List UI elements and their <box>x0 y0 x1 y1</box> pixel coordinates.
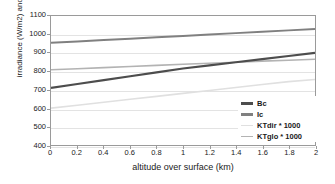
x-axis-tick-mark <box>236 146 237 149</box>
legend-item: Bc <box>241 98 330 109</box>
x-axis-tick-labels: 00.20.40.60.811.21.41.61.82 <box>50 148 316 160</box>
x-axis-tick-label: 0 <box>37 148 63 158</box>
y-axis-tick-label: 900 <box>24 48 46 56</box>
legend-color-swatch <box>241 136 253 138</box>
x-axis-tick-mark <box>156 146 157 149</box>
y-axis-tick-mark <box>47 15 50 16</box>
x-axis-tick-label: 0.6 <box>117 148 143 158</box>
legend-color-swatch <box>241 125 253 127</box>
y-axis-tick-labels: 11001000900800700600500400 <box>24 10 46 150</box>
x-axis-tick-label: 0.2 <box>64 148 90 158</box>
y-axis-tick-label: 800 <box>24 67 46 75</box>
y-axis-tick-label: 1100 <box>24 11 46 19</box>
legend-item: KTglo * 1000 <box>241 131 330 142</box>
x-axis-tick-mark <box>263 146 264 149</box>
x-axis-tick-mark <box>130 146 131 149</box>
x-axis-tick-mark <box>50 146 51 149</box>
legend-item-label: KTdir * 1000 <box>257 121 300 130</box>
legend-item-label: Bc <box>257 99 267 108</box>
x-axis-tick-mark <box>103 146 104 149</box>
x-axis-tick-mark <box>77 146 78 149</box>
x-axis-tick-mark <box>289 146 290 149</box>
legend-item-label: KTglo * 1000 <box>257 132 302 141</box>
x-axis-tick-label: 1.6 <box>250 148 276 158</box>
x-axis-tick-mark <box>210 146 211 149</box>
x-axis-tick-label: 1.4 <box>223 148 249 158</box>
legend-item-label: Ic <box>257 110 263 119</box>
y-axis-tick-mark <box>47 71 50 72</box>
y-axis-tick-mark <box>47 34 50 35</box>
x-axis-tick-label: 0.8 <box>143 148 169 158</box>
y-axis-tick-mark <box>47 52 50 53</box>
legend-item: KTdir * 1000 <box>241 120 330 131</box>
chart-legend: BcIcKTdir * 1000KTglo * 1000 <box>238 96 332 142</box>
legend-item: Ic <box>241 109 330 120</box>
x-axis-tick-label: 2 <box>303 148 329 158</box>
y-axis-tick-mark <box>47 90 50 91</box>
legend-color-swatch <box>241 113 253 116</box>
y-axis-tick-mark <box>47 109 50 110</box>
y-axis-tick-label: 600 <box>24 105 46 113</box>
y-axis-tick-label: 500 <box>24 123 46 131</box>
x-axis-tick-mark <box>183 146 184 149</box>
y-axis-tick-label: 1000 <box>24 30 46 38</box>
line-chart-figure: irradiance (W/m2) and KT*1000 1100100090… <box>0 0 335 184</box>
y-axis-tick-mark <box>47 127 50 128</box>
series-line <box>51 29 315 43</box>
x-axis-tick-label: 0.4 <box>90 148 116 158</box>
x-axis-title: altitude over surface (km) <box>50 162 316 172</box>
x-axis-tick-label: 1.8 <box>276 148 302 158</box>
x-axis-tick-label: 1 <box>170 148 196 158</box>
x-axis-tick-mark <box>316 146 317 149</box>
legend-color-swatch <box>241 102 253 105</box>
x-axis-tick-label: 1.2 <box>197 148 223 158</box>
y-axis-tick-label: 700 <box>24 86 46 94</box>
